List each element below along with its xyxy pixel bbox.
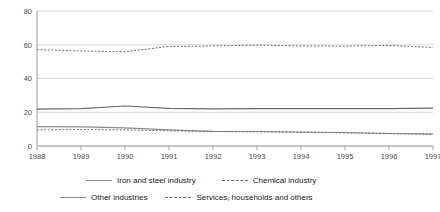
y-tick-label-0: 0 [28, 142, 32, 151]
y-tick-label-40: 40 [24, 74, 32, 83]
x-tick-label-1988: 1988 [29, 152, 46, 161]
legend-entry-services-households-and-others: Services, households and others [165, 193, 312, 203]
chart-legend: Iron and steel industry Chemical industr… [0, 172, 440, 212]
plot-area: 020406080 198819891990199119921993199419… [0, 0, 440, 170]
series-line-services-households-and-others [37, 45, 433, 52]
series-lines [37, 45, 433, 134]
x-tick-label-1997: 1997 [425, 152, 440, 161]
legend-entry-iron-and-steel-industry: Iron and steel industry [86, 176, 196, 186]
chart-svg: 020406080 198819891990199119921993199419… [0, 0, 440, 170]
gridlines [37, 11, 433, 146]
y-axis-tick-labels: 020406080 [24, 7, 32, 151]
y-tick-label-60: 60 [24, 41, 32, 50]
x-tick-label-1994: 1994 [293, 152, 310, 161]
x-axis-ticks [37, 146, 433, 150]
legend-entry-other-industries: Other industries [60, 193, 147, 203]
legend-label-services-households-and-others: Services, households and others [196, 193, 312, 203]
y-tick-label-80: 80 [24, 7, 32, 16]
line-chart: 020406080 198819891990199119921993199419… [0, 0, 440, 212]
x-tick-label-1990: 1990 [117, 152, 134, 161]
y-tick-label-20: 20 [24, 108, 32, 117]
legend-row-2: Other industries Services, households an… [0, 189, 440, 206]
x-tick-label-1993: 1993 [249, 152, 266, 161]
x-tick-label-1995: 1995 [337, 152, 354, 161]
x-tick-label-1991: 1991 [161, 152, 178, 161]
legend-swatch-solid-icon [60, 194, 86, 201]
legend-swatch-solid-icon [86, 177, 112, 184]
series-line-chemical-industry [37, 130, 433, 134]
legend-swatch-dashed-icon [222, 177, 248, 184]
legend-label-iron-and-steel-industry: Iron and steel industry [117, 176, 196, 186]
series-line-other-industries [37, 106, 433, 109]
x-tick-label-1989: 1989 [73, 152, 90, 161]
x-tick-label-1996: 1996 [381, 152, 398, 161]
legend-label-chemical-industry: Chemical industry [253, 176, 317, 186]
x-axis-tick-labels: 1988198919901991199219931994199519961997 [29, 152, 440, 161]
legend-label-other-industries: Other industries [91, 193, 147, 203]
x-tick-label-1992: 1992 [205, 152, 222, 161]
legend-swatch-dashed-icon [165, 194, 191, 201]
legend-row-1: Iron and steel industry Chemical industr… [0, 172, 440, 189]
legend-entry-chemical-industry: Chemical industry [222, 176, 317, 186]
